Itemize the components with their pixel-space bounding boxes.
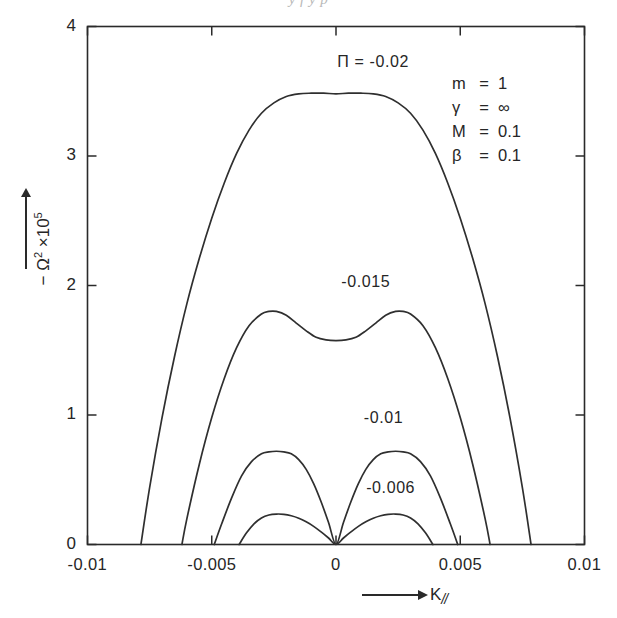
- y-tick-label-0: 0: [67, 534, 76, 554]
- x-tick-label-1: -0.005: [187, 555, 236, 574]
- x-axis-title-text: K: [430, 585, 441, 604]
- curve-label-1: -0.015: [341, 273, 390, 291]
- curve-1: [182, 311, 490, 545]
- legend-value-0: 1: [498, 74, 521, 93]
- y-axis-title: − Ω2 ×105: [32, 184, 54, 314]
- curve-label-2: -0.01: [364, 409, 403, 427]
- x-tick-label-3: 0.005: [439, 555, 482, 574]
- x-tick-label-4: 0.01: [568, 555, 602, 574]
- legend-value-3: 0.1: [498, 146, 521, 165]
- legend-value-2: 0.1: [498, 122, 521, 141]
- legend-equals-1: =: [477, 98, 491, 117]
- curve-label-3: -0.006: [366, 479, 415, 497]
- x-tick-label-0: -0.01: [68, 555, 108, 574]
- parameter-legend: m=1γ=∞M=0.1β=0.1: [452, 74, 521, 165]
- y-tick-label-4: 4: [67, 16, 76, 36]
- y-tick-label-3: 3: [67, 145, 76, 165]
- curve-label-0: Π = -0.02: [337, 53, 409, 71]
- x-axis-title: K//: [430, 585, 447, 607]
- legend-value-1: ∞: [498, 98, 521, 117]
- y-axis-arrow: [25, 195, 27, 269]
- y-tick-label-1: 1: [67, 404, 76, 424]
- chart-plot-area: [0, 0, 617, 618]
- legend-symbol-3: β: [452, 146, 470, 165]
- y-axis-title-mult: ×10: [34, 218, 53, 252]
- legend-symbol-2: M: [452, 122, 470, 141]
- curve-2: [214, 451, 458, 544]
- x-axis-title-subscript: //: [441, 591, 447, 607]
- figure-canvas: y f y p − Ω2 ×105 K// m=1γ=∞M=0.1β=0.1 -…: [0, 0, 617, 618]
- legend-symbol-1: γ: [452, 98, 470, 117]
- legend-equals-2: =: [477, 122, 491, 141]
- y-axis-title-exponent: 2: [32, 252, 44, 258]
- x-axis-arrow: [362, 594, 420, 596]
- y-axis-title-mult-exponent: 5: [32, 212, 44, 218]
- legend-equals-0: =: [477, 74, 491, 93]
- x-tick-label-2: 0: [331, 555, 341, 574]
- y-axis-title-prefix: − Ω: [34, 258, 53, 285]
- legend-symbol-0: m: [452, 74, 470, 93]
- legend-equals-3: =: [477, 146, 491, 165]
- y-tick-label-2: 2: [67, 275, 76, 295]
